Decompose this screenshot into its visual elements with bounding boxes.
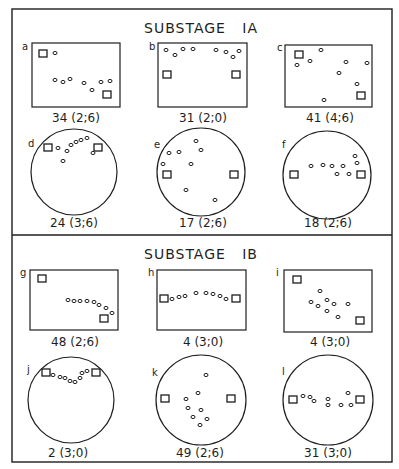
position-dot-icon xyxy=(346,391,350,394)
position-dot-icon xyxy=(199,148,203,151)
panel-f-letter: f xyxy=(282,139,286,150)
position-dot-icon xyxy=(312,399,316,402)
position-dot-icon xyxy=(341,164,345,167)
position-dot-icon xyxy=(198,423,202,426)
panel-e-frame xyxy=(157,128,245,216)
position-dot-icon xyxy=(91,151,95,154)
panel-b: b 31 (2;0) xyxy=(149,41,247,125)
position-dot-icon xyxy=(161,162,165,165)
landmark-square-icon xyxy=(161,395,169,402)
position-dot-icon xyxy=(309,164,313,167)
landmark-square-icon xyxy=(232,295,240,302)
position-dot-icon xyxy=(177,150,181,153)
panel-l: l 31 (3;0) xyxy=(282,355,373,460)
position-dot-icon xyxy=(56,146,60,149)
panel-d-caption: 24 (3;6) xyxy=(50,216,98,230)
position-dot-icon xyxy=(325,309,329,312)
position-dot-icon xyxy=(309,300,313,303)
substage-diagram: SUBSTAGE IA SUBSTAGE IB a 34 (2;6) b 31 … xyxy=(0,0,399,469)
position-dot-icon xyxy=(347,172,351,175)
panel-f-frame xyxy=(283,131,371,219)
position-dot-icon xyxy=(51,373,55,376)
position-dot-icon xyxy=(186,406,190,409)
position-dot-icon xyxy=(344,60,348,63)
landmark-square-icon xyxy=(357,171,365,178)
panel-j-letter: j xyxy=(26,364,30,375)
position-dot-icon xyxy=(108,79,112,82)
position-dot-icon xyxy=(346,302,350,305)
position-dot-icon xyxy=(194,139,198,142)
position-dot-icon xyxy=(353,154,357,157)
position-dot-icon xyxy=(58,375,62,378)
position-dot-icon xyxy=(319,48,323,51)
panel-c-frame xyxy=(285,45,372,107)
panel-i-letter: i xyxy=(276,267,279,278)
position-dot-icon xyxy=(237,49,241,52)
panel-d: d 24 (3;6) xyxy=(28,129,117,230)
panel-e: e 17 (2;6) xyxy=(154,128,245,230)
position-dot-icon xyxy=(308,395,312,398)
position-dot-icon xyxy=(318,289,322,292)
panel-d-marks xyxy=(44,136,102,162)
position-dot-icon xyxy=(231,55,235,58)
panel-l-caption: 31 (3;0) xyxy=(304,446,352,460)
position-dot-icon xyxy=(224,50,228,53)
position-dot-icon xyxy=(68,77,72,80)
landmark-square-icon xyxy=(44,144,52,151)
position-dot-icon xyxy=(325,298,329,301)
section-title-1a: SUBSTAGE IA xyxy=(144,20,258,36)
panel-b-caption: 31 (2;0) xyxy=(179,111,227,125)
panel-j-caption: 2 (3;0) xyxy=(48,446,88,460)
panel-h-marks xyxy=(160,291,240,302)
position-dot-icon xyxy=(184,397,188,400)
panel-g-letter: g xyxy=(20,267,26,278)
landmark-square-icon xyxy=(232,71,240,78)
position-dot-icon xyxy=(72,299,76,302)
position-dot-icon xyxy=(80,371,84,374)
panel-g-marks xyxy=(38,275,114,322)
position-dot-icon xyxy=(204,291,208,294)
position-dot-icon xyxy=(184,188,188,191)
position-dot-icon xyxy=(224,297,228,300)
position-dot-icon xyxy=(213,198,217,201)
position-dot-icon xyxy=(355,82,359,85)
position-dot-icon xyxy=(177,295,181,298)
landmark-square-icon xyxy=(163,71,171,78)
position-dot-icon xyxy=(173,53,177,56)
panel-k: k 49 (2;6) xyxy=(152,355,246,460)
landmark-square-icon xyxy=(356,317,364,324)
position-dot-icon xyxy=(78,299,82,302)
position-dot-icon xyxy=(68,379,72,382)
position-dot-icon xyxy=(191,47,195,50)
panel-c-marks xyxy=(295,48,369,101)
position-dot-icon xyxy=(218,294,222,297)
panel-e-letter: e xyxy=(154,139,160,150)
position-dot-icon xyxy=(205,417,209,420)
panel-g-caption: 48 (2;6) xyxy=(51,335,99,349)
position-dot-icon xyxy=(316,304,320,307)
position-dot-icon xyxy=(349,403,353,406)
panel-e-caption: 17 (2;6) xyxy=(179,216,227,230)
panel-e-marks xyxy=(161,139,238,201)
panel-b-letter: b xyxy=(149,41,155,52)
landmark-square-icon xyxy=(42,369,50,376)
landmark-square-icon xyxy=(293,276,301,283)
panel-d-letter: d xyxy=(28,138,34,149)
position-dot-icon xyxy=(69,143,73,146)
position-dot-icon xyxy=(66,298,70,301)
panel-c-caption: 41 (4;6) xyxy=(306,111,354,125)
panel-a-letter: a xyxy=(22,41,28,52)
position-dot-icon xyxy=(74,140,78,143)
landmark-square-icon xyxy=(230,171,238,178)
landmark-square-icon xyxy=(103,91,111,98)
position-dot-icon xyxy=(301,394,305,397)
position-dot-icon xyxy=(164,48,168,51)
position-dot-icon xyxy=(365,61,369,64)
panel-h: h 4 (3;0) xyxy=(148,267,246,349)
position-dot-icon xyxy=(194,291,198,294)
position-dot-icon xyxy=(355,161,359,164)
landmark-square-icon xyxy=(39,50,47,57)
position-dot-icon xyxy=(53,78,57,81)
panel-a-caption: 34 (2;6) xyxy=(52,111,100,125)
position-dot-icon xyxy=(79,138,83,141)
